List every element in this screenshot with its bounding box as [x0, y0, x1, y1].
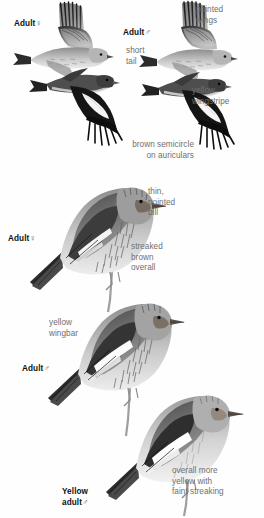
annotation-pointed-wings: pointed wings	[196, 5, 223, 26]
male-symbol-icon: ♂	[144, 27, 151, 37]
annotation-yellow-wingstripe: yellow wingstripe	[192, 86, 229, 107]
figure-flight-female-lower	[29, 68, 122, 145]
label-yellow-adult: Yellow adult♂	[62, 474, 89, 509]
annotation-thin-pointed-bill: thin, pointed bill	[148, 187, 175, 219]
annotation-brown-semicircle: brown semicircle on auriculars	[118, 140, 194, 161]
annotation-overall-more-yellow: overall more yellow with faint streaking	[172, 466, 224, 498]
figure-perched-yellow-adult-male	[106, 395, 244, 516]
annotation-streaked-brown: streaked brown overall	[131, 242, 163, 274]
annotation-short-tail: short tail	[126, 46, 144, 67]
label-flight-female: Adult♀	[14, 7, 42, 29]
female-symbol-icon-2: ♀	[29, 233, 36, 243]
label-perched-male: Adult♂	[22, 352, 50, 374]
annotation-yellow-wingbar: yellow wingbar	[49, 318, 78, 339]
label-flight-male-text: Adult	[123, 28, 144, 37]
male-symbol-icon-3: ♂	[82, 497, 89, 507]
label-flight-male: Adult♂	[123, 16, 151, 38]
female-symbol-icon: ♀	[35, 18, 42, 28]
label-perched-female-text: Adult	[8, 234, 29, 243]
figure-flight-male-lower	[141, 72, 234, 149]
label-flight-female-text: Adult	[14, 19, 35, 28]
label-perched-male-text: Adult	[22, 364, 43, 373]
label-perched-female: Adult♀	[8, 222, 36, 244]
male-symbol-icon-2: ♂	[43, 363, 50, 373]
field-guide-plate: Adult♀ Adult♂ pointed wings short tail y…	[0, 0, 264, 518]
